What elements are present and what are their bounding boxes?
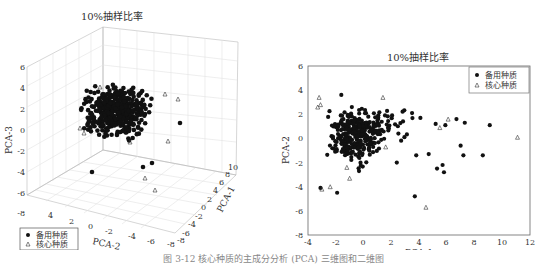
- legend-2d: 备用种质 核心种质: [469, 67, 529, 93]
- svg-text:4: 4: [298, 86, 303, 95]
- legend-label-core: 核心种质: [36, 239, 68, 249]
- svg-text:-4: -4: [17, 168, 25, 177]
- svg-text:4: 4: [416, 238, 421, 247]
- svg-text:2: 2: [207, 195, 212, 204]
- svg-text:-4: -4: [188, 220, 196, 229]
- points-3d-backup: [79, 83, 182, 175]
- chart-2d: 10%抽样比率 6420-2-4-6-8 PCA-2 -4-2024681012…: [270, 0, 547, 250]
- legend-label-backup: 备用种质: [485, 70, 517, 80]
- figure-caption: 图 3-12 核心种质的主成分分析 (PCA) 三维图和二维图: [0, 252, 547, 266]
- svg-text:6: 6: [443, 238, 448, 247]
- svg-text:4: 4: [48, 211, 53, 220]
- filled-circle-icon: [475, 73, 479, 77]
- x-axis-ticks-2d: -4-2024681012: [304, 238, 535, 247]
- legend-3d: 备用种质 核心种质: [20, 228, 78, 250]
- svg-text:6: 6: [298, 62, 303, 71]
- y-axis-label: PCA-2: [92, 236, 122, 250]
- svg-text:-2: -2: [195, 212, 203, 221]
- chart-2d-title: 10%抽样比率: [387, 51, 449, 63]
- svg-text:2: 2: [69, 217, 74, 226]
- svg-text:10: 10: [497, 238, 507, 247]
- svg-text:-8: -8: [167, 240, 175, 249]
- svg-text:-2: -2: [295, 159, 303, 168]
- svg-text:-8: -8: [17, 209, 25, 218]
- svg-text:2: 2: [388, 238, 393, 247]
- svg-text:0: 0: [20, 126, 25, 135]
- svg-text:0: 0: [360, 238, 365, 247]
- legend-label-backup: 备用种质: [36, 230, 68, 240]
- svg-text:-8: -8: [295, 231, 303, 240]
- svg-text:0: 0: [298, 134, 303, 143]
- x-axis-label: PCA-1: [215, 184, 237, 214]
- filled-circle-icon: [26, 233, 30, 237]
- chart-3d: 6420-2-4-6-8 PCA-3 420-2-4-6-8 PCA-2 -8-…: [0, 0, 270, 250]
- svg-text:-6: -6: [182, 229, 190, 238]
- legend-label-core: 核心种质: [485, 80, 517, 90]
- svg-text:-4: -4: [295, 183, 303, 192]
- svg-text:-4: -4: [128, 232, 136, 241]
- svg-text:-6: -6: [17, 189, 25, 198]
- svg-text:4: 4: [213, 186, 218, 195]
- svg-text:0: 0: [88, 222, 93, 231]
- svg-text:6: 6: [219, 178, 224, 187]
- svg-text:-6: -6: [295, 207, 303, 216]
- svg-text:6: 6: [20, 63, 25, 72]
- svg-text:2: 2: [298, 110, 303, 119]
- svg-text:4: 4: [20, 84, 25, 93]
- svg-text:-2: -2: [332, 238, 340, 247]
- y-axis-ticks-2d: 6420-2-4-6-8: [295, 62, 303, 240]
- chart-2d-panel: 10%抽样比率 6420-2-4-6-8 PCA-2 -4-2024681012…: [270, 0, 547, 250]
- svg-text:-2: -2: [105, 227, 113, 236]
- x-axis-label-2d: PCA-1: [405, 248, 433, 250]
- svg-text:-4: -4: [304, 238, 312, 247]
- y-axis-label-2d: PCA-2: [281, 136, 291, 164]
- z-axis-label: PCA-3: [4, 126, 14, 154]
- svg-text:12: 12: [525, 238, 535, 247]
- svg-text:-2: -2: [17, 147, 25, 156]
- svg-text:2: 2: [20, 105, 25, 114]
- chart-3d-title: 10%抽样比率: [81, 10, 143, 22]
- svg-text:-6: -6: [147, 237, 155, 246]
- svg-text:8: 8: [471, 238, 476, 247]
- chart-3d-panel: 6420-2-4-6-8 PCA-3 420-2-4-6-8 PCA-2 -8-…: [0, 0, 270, 250]
- svg-text:0: 0: [201, 203, 206, 212]
- svg-text:10: 10: [228, 163, 238, 172]
- z-axis-ticks: 6420-2-4-6-8: [17, 63, 25, 218]
